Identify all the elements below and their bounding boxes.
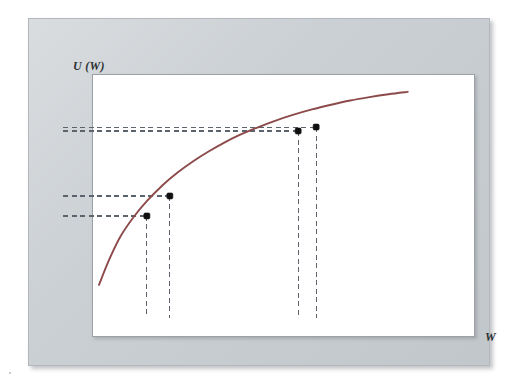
y-axis-label: U (W) [73, 59, 105, 74]
figure-canvas: U (W) W [0, 0, 518, 385]
figure-panel: U (W) W [28, 18, 490, 366]
plot-area [92, 74, 475, 337]
x-axis-label: W [485, 330, 496, 345]
scan-speck [9, 372, 11, 374]
